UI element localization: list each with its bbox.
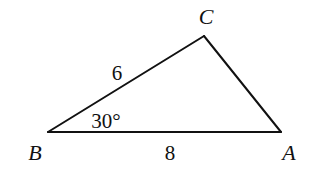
angle-label-b: 30°: [91, 109, 120, 133]
vertex-label-a: A: [280, 140, 296, 165]
side-length-bc: 6: [112, 61, 123, 85]
vertex-label-c: C: [199, 4, 214, 29]
side-length-ba: 8: [165, 141, 176, 165]
side-bc: [48, 36, 204, 132]
triangle-diagram: B C A 6 8 30°: [0, 0, 314, 178]
vertex-label-b: B: [28, 140, 41, 165]
diagram-canvas: B C A 6 8 30°: [0, 0, 314, 178]
side-ca: [204, 36, 281, 132]
